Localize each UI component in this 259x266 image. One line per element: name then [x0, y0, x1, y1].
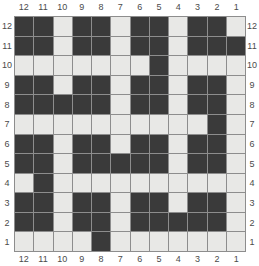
grid-cell[interactable] [54, 37, 72, 56]
grid-cell[interactable] [208, 154, 226, 173]
grid-cell[interactable] [111, 37, 129, 56]
grid-cell[interactable] [131, 135, 149, 154]
grid-cell[interactable] [111, 135, 129, 154]
grid-cell[interactable] [188, 135, 206, 154]
grid-cell[interactable] [227, 193, 245, 212]
grid-cell[interactable] [188, 17, 206, 36]
grid-cell[interactable] [208, 232, 226, 251]
grid-cell[interactable] [34, 37, 52, 56]
grid-cell[interactable] [54, 174, 72, 193]
grid-cell[interactable] [54, 193, 72, 212]
grid-cell[interactable] [15, 76, 33, 95]
grid-cell[interactable] [34, 17, 52, 36]
grid-cell[interactable] [15, 115, 33, 134]
grid-cell[interactable] [169, 95, 187, 114]
grid-cell[interactable] [131, 213, 149, 232]
grid-cell[interactable] [150, 115, 168, 134]
grid-cell[interactable] [54, 232, 72, 251]
grid-cell[interactable] [208, 56, 226, 75]
grid-cell[interactable] [150, 154, 168, 173]
grid-cell[interactable] [227, 135, 245, 154]
grid-cell[interactable] [111, 17, 129, 36]
grid-cell[interactable] [73, 76, 91, 95]
grid-cell[interactable] [54, 56, 72, 75]
grid-cell[interactable] [15, 154, 33, 173]
grid-cell[interactable] [34, 115, 52, 134]
grid-cell[interactable] [73, 135, 91, 154]
grid-cell[interactable] [92, 56, 110, 75]
grid-cell[interactable] [188, 95, 206, 114]
grid-cell[interactable] [73, 95, 91, 114]
grid-cell[interactable] [15, 56, 33, 75]
grid-cell[interactable] [15, 213, 33, 232]
grid-cell[interactable] [15, 193, 33, 212]
grid-cell[interactable] [54, 213, 72, 232]
grid-cell[interactable] [227, 213, 245, 232]
grid-cell[interactable] [34, 56, 52, 75]
grid-cell[interactable] [34, 232, 52, 251]
grid-cell[interactable] [169, 17, 187, 36]
grid-cell[interactable] [227, 154, 245, 173]
grid-cell[interactable] [188, 154, 206, 173]
grid-cell[interactable] [188, 232, 206, 251]
grid-cell[interactable] [73, 17, 91, 36]
grid-cell[interactable] [131, 76, 149, 95]
grid-cell[interactable] [208, 135, 226, 154]
grid-cell[interactable] [92, 232, 110, 251]
grid-cell[interactable] [208, 213, 226, 232]
grid-cell[interactable] [150, 56, 168, 75]
grid-cell[interactable] [92, 135, 110, 154]
grid-cell[interactable] [34, 154, 52, 173]
grid-cell[interactable] [54, 115, 72, 134]
grid-cell[interactable] [111, 115, 129, 134]
grid-cell[interactable] [54, 76, 72, 95]
grid-cell[interactable] [34, 76, 52, 95]
grid-cell[interactable] [169, 37, 187, 56]
grid-cell[interactable] [169, 56, 187, 75]
grid-cell[interactable] [150, 174, 168, 193]
grid-cell[interactable] [92, 154, 110, 173]
pattern-grid[interactable] [14, 16, 246, 252]
grid-cell[interactable] [131, 154, 149, 173]
grid-cell[interactable] [111, 213, 129, 232]
grid-cell[interactable] [169, 232, 187, 251]
grid-cell[interactable] [54, 95, 72, 114]
grid-cell[interactable] [188, 193, 206, 212]
grid-cell[interactable] [188, 56, 206, 75]
grid-cell[interactable] [111, 232, 129, 251]
grid-cell[interactable] [34, 135, 52, 154]
grid-cell[interactable] [73, 154, 91, 173]
grid-cell[interactable] [111, 193, 129, 212]
grid-cell[interactable] [169, 174, 187, 193]
grid-cell[interactable] [15, 17, 33, 36]
grid-cell[interactable] [15, 95, 33, 114]
grid-cell[interactable] [73, 174, 91, 193]
grid-cell[interactable] [111, 154, 129, 173]
grid-cell[interactable] [227, 56, 245, 75]
grid-cell[interactable] [92, 213, 110, 232]
grid-cell[interactable] [73, 232, 91, 251]
grid-cell[interactable] [150, 135, 168, 154]
grid-cell[interactable] [208, 193, 226, 212]
grid-cell[interactable] [34, 193, 52, 212]
grid-cell[interactable] [34, 174, 52, 193]
grid-cell[interactable] [92, 17, 110, 36]
grid-cell[interactable] [111, 56, 129, 75]
grid-cell[interactable] [150, 17, 168, 36]
grid-cell[interactable] [131, 174, 149, 193]
grid-cell[interactable] [169, 135, 187, 154]
grid-cell[interactable] [208, 17, 226, 36]
grid-cell[interactable] [188, 76, 206, 95]
grid-cell[interactable] [111, 76, 129, 95]
grid-cell[interactable] [34, 213, 52, 232]
grid-cell[interactable] [150, 37, 168, 56]
grid-cell[interactable] [73, 115, 91, 134]
grid-cell[interactable] [227, 17, 245, 36]
grid-cell[interactable] [54, 17, 72, 36]
grid-cell[interactable] [111, 174, 129, 193]
grid-cell[interactable] [131, 95, 149, 114]
grid-cell[interactable] [169, 213, 187, 232]
grid-cell[interactable] [208, 95, 226, 114]
grid-cell[interactable] [131, 115, 149, 134]
grid-cell[interactable] [169, 154, 187, 173]
